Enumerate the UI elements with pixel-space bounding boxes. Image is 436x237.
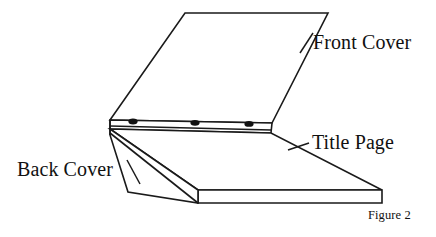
label-title-page: Title Page bbox=[312, 131, 394, 154]
ring-hole-2 bbox=[190, 120, 199, 126]
figure-caption: Figure 2 bbox=[368, 208, 411, 223]
ring-hole-1 bbox=[128, 119, 137, 125]
ring-hole-3 bbox=[244, 121, 253, 127]
figure-2-diagram: Front Cover Title Page Back Cover Figure… bbox=[0, 0, 436, 237]
front-cover-panel bbox=[110, 13, 328, 123]
label-back-cover: Back Cover bbox=[17, 158, 113, 181]
page-stack-edge bbox=[198, 190, 382, 203]
label-front-cover: Front Cover bbox=[313, 31, 411, 54]
